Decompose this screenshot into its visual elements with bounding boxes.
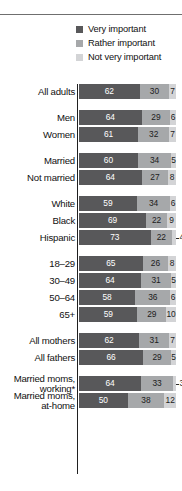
bar-segment-value: 6 [171,113,176,121]
chart-row: Black69229 [0,213,182,228]
bar-segment-value: 22 [152,216,161,224]
bar-segment-very-important: 59 [79,196,137,211]
bar-segment-not-very-important: 6 [170,290,176,305]
row-label: Married [44,156,75,166]
bar-segment-value: 64 [105,276,114,284]
bar-segment-very-important: 64 [79,110,142,125]
bar-segment-value: 34 [150,156,159,164]
row-label: All fathers [35,353,75,363]
bar-segment-not-very-important: 7 [169,333,176,348]
group-separator [0,187,182,196]
bar-segment-rather-important: 33 [141,376,173,391]
bar-segment-very-important: 73 [79,230,151,245]
chart-row: White59346 [0,196,182,211]
bar-segment-value: 12 [166,396,175,404]
stacked-bar: 592910 [79,307,176,322]
stacked-bar: 65268 [79,256,176,271]
bar-segment-value: 22 [157,233,166,241]
bar-segment-value: 34 [149,199,158,207]
bar-segment-value: 61 [104,130,113,138]
row-label: Hispanic [40,233,75,243]
bar-segment-rather-important: 26 [143,256,168,271]
bar-segment-rather-important: 31 [139,333,169,348]
chart-row: Hispanic73224 [0,230,182,245]
bar-segment-value: 27 [150,173,159,181]
bar-segment-value: 64 [106,113,115,121]
legend-item-label: Not very important [88,52,161,62]
chart-row: 65+592910 [0,307,182,322]
chart-row: Women61327 [0,127,182,142]
legend-swatch-icon [76,54,83,61]
bar-segment-very-important: 59 [79,307,137,322]
chart-row: 30–4964315 [0,273,182,288]
row-label: Not married [27,173,75,183]
row-label: All mothers [29,336,75,346]
bar-segment-not-very-important: 10 [166,307,176,322]
bar-segment-very-important: 64 [79,170,142,185]
bar-segment-value: 66 [106,353,115,361]
bar-segment-rather-important: 34 [137,196,170,211]
bar-segment-rather-important: 36 [135,290,170,305]
bar-segment-value: 64 [106,173,115,181]
stacked-bar: 66295 [79,350,176,365]
bar-segment-value: 31 [152,276,161,284]
group-separator [0,144,182,153]
row-label: 18–29 [49,259,75,269]
bar-segment-value: 8 [170,173,175,181]
legend-item-rather: Rather important [76,36,182,50]
stacked-bar: 61327 [79,127,176,142]
chart-row: Not married64278 [0,170,182,185]
chart-row: All mothers62317 [0,333,182,348]
bar-segment-rather-important: 29 [142,110,170,125]
bar-segment-not-very-important: 5 [171,273,176,288]
stacked-bar: 64296 [79,110,176,125]
row-label: 30–49 [49,276,75,286]
stacked-bar-chart: Very importantRather importantNot very i… [0,0,182,491]
bar-segment-value: 38 [141,396,150,404]
bar-segment-value: 62 [105,336,114,344]
bar-segment-value: 4 [179,233,182,241]
bar-segment-very-important: 62 [79,333,139,348]
row-label: 50–64 [49,293,75,303]
bar-segment-value: 58 [103,293,112,301]
bar-segment-not-very-important: 6 [170,196,176,211]
bar-segment-not-very-important: 9 [167,213,176,228]
bar-segment-rather-important: 29 [137,307,166,322]
bar-segment-very-important: 61 [79,127,138,142]
bar-segment-value: 7 [170,130,175,138]
bar-segment-not-very-important: 8 [168,256,176,271]
bar-segment-rather-important: 31 [141,273,171,288]
bar-segment-value: 69 [108,216,117,224]
row-label: Men [57,113,75,123]
bar-segment-not-very-important: 8 [168,170,176,185]
stacked-bar: 62307 [79,84,176,99]
stacked-bar: 64333 [79,376,176,391]
bar-segment-very-important: 60 [79,153,138,168]
chart-rows: All adults62307Men64296Women61327Married… [0,84,182,410]
header-divider [0,14,182,15]
stacked-bar: 73224 [79,230,176,245]
stacked-bar: 64315 [79,273,176,288]
bar-segment-very-important: 58 [79,290,135,305]
chart-legend: Very importantRather importantNot very i… [76,22,182,64]
bar-segment-value: 32 [149,130,158,138]
bar-segment-not-very-important: 6 [170,110,176,125]
bar-segment-value: 73 [110,233,119,241]
bar-segment-value: 60 [104,156,113,164]
chart-row: 18–2965268 [0,256,182,271]
legend-item-not_very: Not very important [76,50,182,64]
stacked-bar: 59346 [79,196,176,211]
bar-segment-value: 33 [153,379,162,387]
bar-segment-value: 65 [106,259,115,267]
bar-segment-not-very-important: 7 [169,84,176,99]
bar-segment-value: 5 [171,353,176,361]
stacked-bar: 503812 [79,393,176,408]
bar-segment-rather-important: 38 [128,393,165,408]
group-separator [0,247,182,256]
bar-segment-very-important: 64 [79,273,141,288]
row-label: Women [43,130,75,140]
group-separator [0,101,182,110]
bar-segment-value: 26 [151,259,160,267]
legend-swatch-icon [76,40,83,47]
row-label: All adults [38,87,75,97]
